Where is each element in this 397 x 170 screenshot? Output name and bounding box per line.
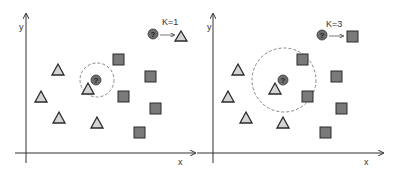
triangle-point	[82, 83, 94, 94]
triangle-point	[269, 83, 281, 94]
triangle-point	[35, 91, 47, 102]
square-point	[336, 103, 347, 114]
triangle-point	[277, 117, 289, 128]
square-point	[150, 103, 161, 114]
square-class	[113, 54, 161, 138]
query-symbol: ?	[94, 76, 99, 85]
square-point	[297, 54, 308, 65]
triangle-point	[52, 64, 64, 75]
y-axis-label: y	[207, 22, 212, 32]
query-symbol: ?	[281, 76, 286, 85]
query-symbol: ?	[151, 30, 156, 39]
square-point	[302, 91, 313, 102]
triangle-point	[53, 112, 65, 123]
square-class	[297, 54, 347, 138]
square-point	[134, 127, 145, 138]
square-point	[145, 71, 156, 82]
x-axis-label: x	[364, 157, 369, 167]
triangle-class	[222, 64, 289, 128]
y-axis-label: y	[19, 22, 24, 32]
square-point	[118, 91, 129, 102]
knn-diagram: y x K=1 ? ? y x K=3 ?	[0, 0, 397, 170]
panel-k1: y x K=1 ? ?	[15, 14, 195, 167]
triangle-point	[91, 117, 103, 128]
query-symbol: ?	[320, 31, 325, 40]
square-point	[331, 71, 342, 82]
k-label: K=1	[162, 17, 178, 27]
result-triangle-icon	[175, 31, 187, 41]
square-point	[113, 54, 124, 65]
triangle-point	[232, 64, 244, 75]
x-axis-label: x	[178, 157, 183, 167]
panel-k3: y x K=3 ? ?	[197, 14, 383, 167]
square-point	[320, 127, 331, 138]
k-label: K=3	[326, 19, 342, 29]
triangle-point	[240, 112, 252, 123]
triangle-point	[222, 91, 234, 102]
result-square-icon	[347, 31, 358, 42]
